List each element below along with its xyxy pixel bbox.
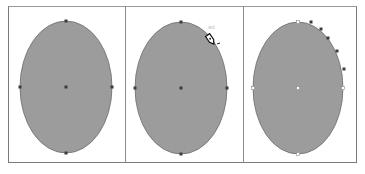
- anchor-point[interactable]: [65, 20, 68, 23]
- anchor-point[interactable]: [65, 152, 68, 155]
- cursor-plus-mark: [217, 43, 220, 44]
- anchor-point[interactable]: [320, 28, 323, 31]
- anchor-point[interactable]: [336, 50, 339, 53]
- anchor-point[interactable]: [134, 87, 137, 90]
- anchor-point[interactable]: [310, 21, 313, 24]
- anchor-point-hollow[interactable]: [297, 21, 300, 24]
- diagram-canvas: [0, 0, 365, 174]
- anchor-point[interactable]: [343, 68, 346, 71]
- panel-1: [19, 20, 114, 155]
- anchor-point[interactable]: [65, 86, 68, 89]
- anchor-point-hollow[interactable]: [297, 153, 300, 156]
- panel-3: [252, 21, 346, 156]
- anchor-point-hollow[interactable]: [252, 87, 255, 90]
- anchor-point[interactable]: [19, 86, 22, 89]
- anchor-point[interactable]: [327, 37, 330, 40]
- anchor-point[interactable]: [226, 87, 229, 90]
- panel-2: [134, 21, 229, 156]
- anchor-point-hollow[interactable]: [297, 87, 300, 90]
- anchor-point-hollow[interactable]: [342, 87, 345, 90]
- anchor-point[interactable]: [180, 153, 183, 156]
- pen-cursor-label: ad: [208, 24, 215, 30]
- anchor-point[interactable]: [180, 21, 183, 24]
- anchor-point[interactable]: [111, 86, 114, 89]
- anchor-point[interactable]: [180, 87, 183, 90]
